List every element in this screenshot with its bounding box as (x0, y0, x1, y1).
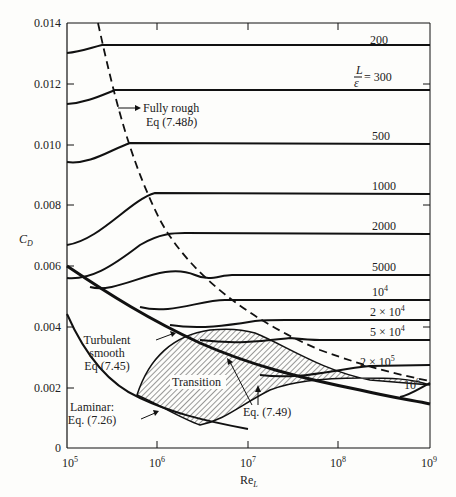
svg-text:Eq (7.45): Eq (7.45) (84, 359, 129, 373)
svg-text:500: 500 (372, 129, 390, 143)
svg-text:0.012: 0.012 (34, 77, 61, 91)
svg-text:2000: 2000 (372, 219, 396, 233)
curve-labels: 200 L ε = 300 500 1000 2000 5000 104 2 ×… (354, 33, 420, 392)
svg-text:5000: 5000 (372, 260, 396, 274)
x-axis-title: ReL (240, 473, 258, 489)
svg-text:Eq. (7.49): Eq. (7.49) (243, 405, 291, 419)
y-axis-title: CD (19, 232, 33, 248)
svg-text:Eq. (7.26): Eq. (7.26) (68, 413, 116, 427)
svg-text:0: 0 (55, 441, 61, 455)
svg-text:Turbulent: Turbulent (84, 333, 132, 347)
svg-text:= 300: = 300 (364, 70, 392, 84)
svg-text:0.004: 0.004 (34, 320, 61, 334)
svg-text:Fully rough: Fully rough (143, 101, 199, 115)
curve-300 (67, 90, 430, 104)
svg-text:2 × 105: 2 × 105 (360, 354, 395, 369)
svg-text:L: L (355, 63, 363, 77)
svg-text:0.014: 0.014 (34, 16, 61, 30)
svg-text:1000: 1000 (372, 179, 396, 193)
svg-text:Laminar:: Laminar: (70, 400, 114, 414)
svg-text:0.010: 0.010 (34, 138, 61, 152)
svg-text:5 × 104: 5 × 104 (370, 324, 405, 339)
svg-text:2 × 104: 2 × 104 (370, 304, 405, 319)
svg-text:107: 107 (240, 455, 256, 470)
y-tick-labels: 0.014 0.012 0.010 0.008 0.006 0.004 0.00… (34, 16, 61, 455)
svg-text:0.006: 0.006 (34, 259, 61, 273)
drag-coefficient-chart: 0.014 0.012 0.010 0.008 0.006 0.004 0.00… (0, 0, 456, 497)
svg-text:109: 109 (421, 455, 437, 470)
svg-text:Eq (7.48b): Eq (7.48b) (146, 115, 197, 129)
svg-text:0.002: 0.002 (34, 381, 61, 395)
svg-text:ε: ε (354, 76, 359, 90)
svg-text:106: 106 (149, 455, 165, 470)
svg-text:104: 104 (372, 284, 388, 299)
svg-text:108: 108 (330, 455, 346, 470)
curve-500 (67, 143, 430, 162)
svg-text:105: 105 (62, 455, 78, 470)
svg-text:Transition: Transition (172, 375, 221, 389)
x-tick-labels: 105 106 107 108 109 (62, 455, 437, 470)
svg-text:200: 200 (370, 33, 388, 47)
svg-text:0.008: 0.008 (34, 198, 61, 212)
svg-text:smooth: smooth (89, 346, 124, 360)
